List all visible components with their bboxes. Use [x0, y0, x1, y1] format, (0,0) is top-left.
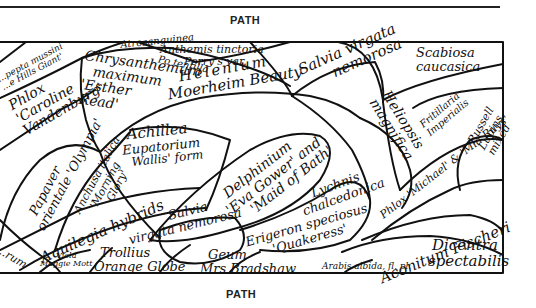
path-label-top: PATH	[230, 14, 260, 26]
plant-label-line: Trollius	[100, 246, 186, 260]
plant-label-line: Arabis albida, fl, pl.	[322, 262, 411, 271]
plant-label-dicentra: Dicentra spectabilis	[428, 238, 509, 270]
plant-label-geum: Geum Mrs Bradshaw	[200, 248, 296, 275]
plant-label-line: spectabilis	[428, 254, 509, 270]
plant-label-line: caucasica	[416, 60, 480, 74]
plant-label-line: Orange Globe	[94, 260, 186, 274]
plant-label-arabis: Arabis albida, fl, pl.	[322, 262, 411, 271]
plant-label-line: Anthemis tinctoria	[160, 44, 264, 56]
plant-label-trollius: Trollius Orange Globe	[94, 246, 186, 273]
plant-label-line: Maggie Mott	[40, 260, 92, 268]
plant-label-line: Scabiosa	[416, 46, 480, 60]
plant-label-scabiosa: Scabiosa caucasica	[416, 46, 480, 73]
planting-border: Anthemis tinctoria Perry's var. Po tenti…	[0, 40, 505, 276]
border-top-edge-line	[0, 6, 500, 8]
plant-label-line: Mrs Bradshaw	[200, 262, 296, 276]
plant-label-viola: Viola Maggie Mott	[40, 252, 92, 269]
path-label-bottom: PATH	[226, 288, 256, 300]
plant-label-line: Geum	[208, 248, 296, 262]
